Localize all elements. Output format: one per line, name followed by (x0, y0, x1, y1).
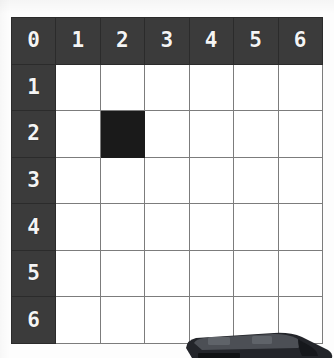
cell-5-1[interactable] (234, 64, 278, 111)
grid-row-4: 4 (12, 204, 323, 251)
cell-5-3[interactable] (234, 157, 278, 204)
cell-2-3[interactable] (100, 157, 144, 204)
grid-row-5: 5 (12, 250, 323, 297)
cell-5-4[interactable] (234, 204, 278, 251)
row-header-label: 2 (12, 123, 55, 144)
column-header-1[interactable]: 1 (56, 18, 100, 65)
row-header-6[interactable]: 6 (12, 297, 56, 344)
cell-3-2[interactable] (145, 111, 189, 158)
grid-board: 0 1 2 3 4 5 6 (0, 0, 334, 358)
cell-4-2[interactable] (189, 111, 233, 158)
grid-row-3: 3 (12, 157, 323, 204)
column-header-3[interactable]: 3 (145, 18, 189, 65)
grid-header-row: 0 1 2 3 4 5 6 (12, 18, 323, 65)
grid-row-6: 6 (12, 297, 323, 344)
cell-4-1[interactable] (189, 64, 233, 111)
cell-2-4[interactable] (100, 204, 144, 251)
cell-1-4[interactable] (56, 204, 100, 251)
column-header-label: 4 (190, 30, 233, 51)
column-header-6[interactable]: 6 (278, 18, 322, 65)
cell-6-2[interactable] (278, 111, 322, 158)
cell-6-5[interactable] (278, 250, 322, 297)
cell-1-3[interactable] (56, 157, 100, 204)
cell-4-4[interactable] (189, 204, 233, 251)
cell-3-3[interactable] (145, 157, 189, 204)
cell-6-6[interactable] (278, 297, 322, 344)
cell-3-6[interactable] (145, 297, 189, 344)
cell-2-6[interactable] (100, 297, 144, 344)
grid-row-1: 1 (12, 64, 323, 111)
cell-1-2[interactable] (56, 111, 100, 158)
cell-6-4[interactable] (278, 204, 322, 251)
cell-4-3[interactable] (189, 157, 233, 204)
cell-3-4[interactable] (145, 204, 189, 251)
cell-4-5[interactable] (189, 250, 233, 297)
row-header-label: 4 (12, 217, 55, 238)
cell-2-5[interactable] (100, 250, 144, 297)
cell-6-1[interactable] (278, 64, 322, 111)
row-header-3[interactable]: 3 (12, 157, 56, 204)
column-header-label: 1 (56, 30, 99, 51)
cell-2-1[interactable] (100, 64, 144, 111)
cell-1-5[interactable] (56, 250, 100, 297)
corner-label: 0 (12, 30, 55, 51)
cell-3-1[interactable] (145, 64, 189, 111)
row-header-1[interactable]: 1 (12, 64, 56, 111)
column-header-label: 5 (234, 30, 277, 51)
cell-5-6[interactable] (234, 297, 278, 344)
coordinate-grid[interactable]: 0 1 2 3 4 5 6 (11, 17, 323, 344)
cell-5-5[interactable] (234, 250, 278, 297)
grid-row-2: 2 (12, 111, 323, 158)
cell-3-5[interactable] (145, 250, 189, 297)
grid-corner-cell: 0 (12, 18, 56, 65)
column-header-5[interactable]: 5 (234, 18, 278, 65)
row-header-label: 6 (12, 310, 55, 331)
column-header-label: 2 (101, 30, 144, 51)
row-header-2[interactable]: 2 (12, 111, 56, 158)
row-header-label: 1 (12, 77, 55, 98)
row-header-4[interactable]: 4 (12, 204, 56, 251)
cell-6-3[interactable] (278, 157, 322, 204)
cell-5-2[interactable] (234, 111, 278, 158)
row-header-5[interactable]: 5 (12, 250, 56, 297)
column-header-4[interactable]: 4 (189, 18, 233, 65)
column-header-label: 6 (279, 30, 322, 51)
column-header-2[interactable]: 2 (100, 18, 144, 65)
row-header-label: 3 (12, 170, 55, 191)
cell-4-6[interactable] (189, 297, 233, 344)
cell-1-1[interactable] (56, 64, 100, 111)
row-header-label: 5 (12, 263, 55, 284)
column-header-label: 3 (145, 30, 188, 51)
cell-2-2-filled[interactable] (100, 111, 144, 158)
cell-1-6[interactable] (56, 297, 100, 344)
